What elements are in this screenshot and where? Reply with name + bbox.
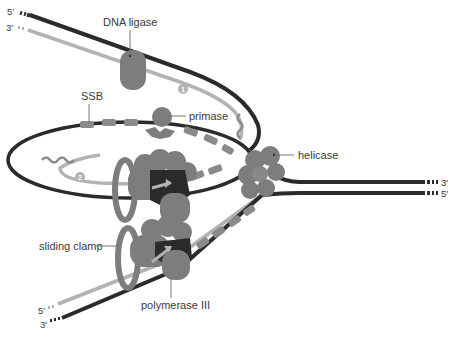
top-left-dark-end-dashes: [19, 11, 30, 18]
top-left-dark-end-label: 5': [7, 6, 14, 17]
polymerase-iii-lagging: [115, 149, 197, 223]
right-lower-end-label: 5': [441, 188, 448, 199]
right-end-dashes: [427, 180, 438, 195]
sliding-clamp-label-group: sliding clamp: [39, 240, 118, 252]
bottom-left-end-dashes: [48, 305, 60, 322]
okazaki-marker-2: 2: [75, 172, 85, 182]
replication-fork-diagram: 3' 5' 5' 3' 1 2: [0, 0, 469, 350]
rna-primer-squiggle-left: [42, 158, 74, 163]
helicase-label: helicase: [298, 149, 338, 161]
okazaki-marker-1: 1: [178, 84, 188, 94]
parental-duplex: 3' 5': [262, 174, 448, 199]
dna-ligase-label: DNA ligase: [103, 16, 157, 28]
ssb-label: SSB: [81, 90, 103, 102]
polymerase-iii-label: polymerase III: [141, 299, 210, 311]
right-upper-end-label: 3': [441, 177, 448, 188]
top-left-light-end-dashes: [18, 26, 24, 30]
sliding-clamp-label: sliding clamp: [39, 240, 103, 252]
svg-text:1: 1: [181, 86, 185, 93]
bottom-left-dark-end-label: 3': [40, 319, 47, 330]
ssb-label-group: SSB: [81, 90, 103, 123]
bottom-left-light-end-label: 5': [38, 305, 45, 316]
primase-label: primase: [189, 110, 228, 122]
svg-text:2: 2: [78, 174, 82, 181]
top-left-light-end-label: 3': [6, 22, 13, 33]
dna-ligase: DNA ligase: [103, 16, 157, 90]
